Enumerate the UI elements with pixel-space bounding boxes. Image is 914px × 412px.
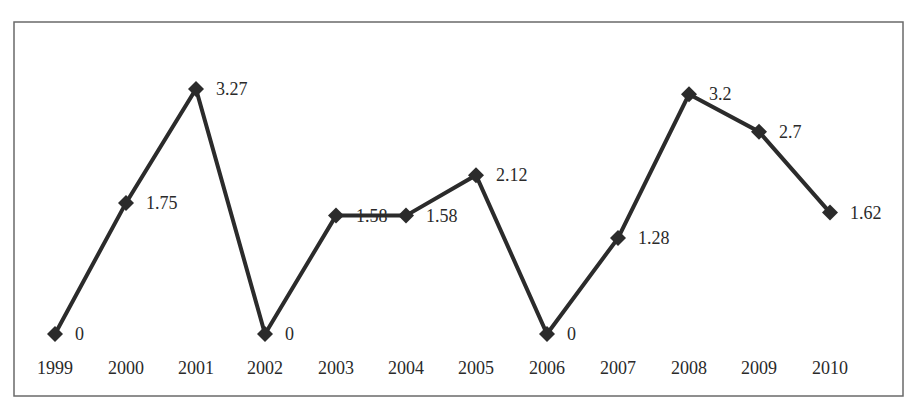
x-tick-label: 2000	[108, 358, 144, 378]
line-chart: 01.753.2701.581.582.1201.283.22.71.62 19…	[0, 0, 914, 412]
data-label: 3.2	[709, 84, 732, 104]
data-label: 1.58	[356, 206, 388, 226]
diamond-marker	[398, 208, 414, 224]
x-tick-label: 2007	[600, 358, 636, 378]
x-tick-label: 2001	[178, 358, 214, 378]
x-tick-label: 2002	[247, 358, 283, 378]
x-tick-label: 2004	[388, 358, 424, 378]
x-tick-label: 2003	[318, 358, 354, 378]
data-label: 1.28	[638, 228, 670, 248]
x-tick-label: 2009	[741, 358, 777, 378]
x-tick-label: 2010	[812, 358, 848, 378]
data-label: 0	[285, 324, 294, 344]
data-label: 2.12	[496, 165, 528, 185]
data-label: 2.7	[779, 122, 802, 142]
data-label: 0	[75, 324, 84, 344]
data-label: 1.75	[146, 193, 178, 213]
data-label: 1.58	[426, 206, 458, 226]
data-label: 0	[567, 324, 576, 344]
x-axis-tick-labels: 1999200020012002200320042005200620072008…	[37, 358, 848, 378]
x-tick-label: 2008	[671, 358, 707, 378]
x-tick-label: 2006	[529, 358, 565, 378]
data-label: 3.27	[216, 79, 248, 99]
diamond-marker	[47, 326, 63, 342]
diamond-marker	[681, 86, 697, 102]
diamond-marker	[468, 167, 484, 183]
data-label: 1.62	[850, 203, 882, 223]
x-tick-label: 1999	[37, 358, 73, 378]
data-labels: 01.753.2701.581.582.1201.283.22.71.62	[75, 79, 882, 344]
x-tick-label: 2005	[458, 358, 494, 378]
